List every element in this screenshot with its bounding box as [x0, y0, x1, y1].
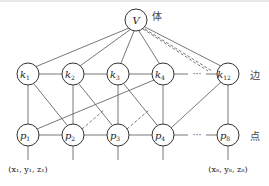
point-row-ellipsis: ···	[193, 130, 202, 140]
edge-p3-dashed	[127, 110, 149, 129]
hypergraph-diagram: V k1 k2 k3 k4 ··· k12 p1 p2 p3 p4 ··· p8	[0, 0, 269, 186]
node-v: V	[125, 9, 147, 31]
node-p1: p1	[17, 124, 39, 146]
volume-edges	[35, 27, 221, 71]
node-k2: k2	[62, 63, 84, 85]
point-stubs	[28, 146, 228, 160]
coord-first: (x₁, y₁, z₁)	[8, 165, 47, 174]
label-edge: 边	[250, 70, 260, 81]
edge-v-k2	[80, 29, 131, 66]
node-k4: k4	[152, 63, 174, 85]
edge-v-k12	[145, 27, 221, 66]
edge-v-dashed-1	[143, 29, 208, 71]
edge-v-dashed-2	[145, 29, 212, 71]
node-k1: k1	[17, 63, 39, 85]
node-p4: p4	[152, 124, 174, 146]
edge-v-k3	[121, 31, 134, 63]
node-k12: k12	[217, 63, 239, 85]
node-p3: p3	[107, 124, 129, 146]
edge-v-k1	[35, 28, 129, 67]
label-point: 点	[250, 131, 260, 142]
incidence-edges	[28, 80, 228, 129]
label-volume: 体	[152, 11, 162, 22]
coord-last: (x₈, y₈, z₈)	[208, 165, 247, 174]
edge-k12-p4	[171, 82, 221, 128]
node-k3: k3	[107, 63, 129, 85]
edge-p2-dashed	[82, 110, 104, 129]
edge-row-ellipsis: ···	[193, 69, 202, 79]
edge-k4-p1	[37, 80, 154, 129]
node-p8: p8	[217, 124, 239, 146]
node-p2: p2	[62, 124, 84, 146]
